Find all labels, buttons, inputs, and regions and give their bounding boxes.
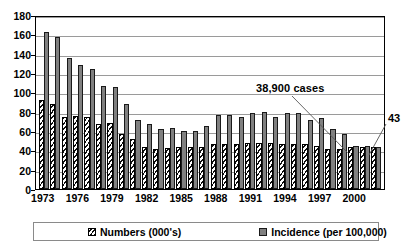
bar-group-1984	[164, 17, 175, 189]
bar-group-2001	[359, 17, 370, 189]
plot-area	[35, 16, 385, 190]
bar-incidence-1996	[308, 120, 313, 189]
bar-incidence-1977	[90, 69, 95, 189]
bar-incidence-1992	[262, 112, 267, 189]
chart-container: 020406080100120140160180 197319761979198…	[0, 0, 412, 249]
bar-incidence-1981	[135, 120, 140, 189]
legend-label-numbers: Numbers (000's)	[100, 226, 181, 238]
y-axis-tick-100: 100	[13, 88, 31, 98]
y-axis-tick-140: 140	[13, 50, 31, 60]
y-axis-tick-180: 180	[13, 11, 31, 21]
bar-group-1990	[233, 17, 244, 189]
x-axis-tick-1976: 1976	[66, 192, 89, 204]
y-axis-tick-80: 80	[19, 108, 31, 118]
bar-group-1978	[95, 17, 106, 189]
bar-incidence-1993	[273, 117, 278, 190]
bar-incidence-1989	[227, 115, 232, 189]
x-axis-tick-2000: 2000	[342, 192, 365, 204]
bar-group-1981	[130, 17, 141, 189]
bar-group-1989	[222, 17, 233, 189]
bar-incidence-1997	[319, 118, 324, 189]
legend-item-numbers[interactable]: Numbers (000's)	[88, 226, 181, 238]
bar-group-1992	[256, 17, 267, 189]
bar-group-1997	[313, 17, 324, 189]
x-axis-tick-1994: 1994	[273, 192, 296, 204]
legend-item-incidence[interactable]: Incidence (per 100,000)	[259, 226, 387, 238]
bar-incidence-1999	[342, 134, 347, 189]
bar-group-2000	[348, 17, 359, 189]
x-axis-tick-1982: 1982	[135, 192, 158, 204]
bar-group-1974	[49, 17, 60, 189]
x-axis-tick-1985: 1985	[169, 192, 192, 204]
bar-incidence-1987	[204, 126, 209, 189]
chart-legend: Numbers (000's) Incidence (per 100,000)	[33, 222, 379, 241]
bar-incidence-1991	[250, 113, 255, 189]
x-axis-tick-1979: 1979	[100, 192, 123, 204]
gray-swatch-icon	[259, 228, 267, 236]
y-axis-tick-120: 120	[13, 69, 31, 79]
bar-group-1988	[210, 17, 221, 189]
x-axis-tick-1991: 1991	[239, 192, 262, 204]
x-axis-tick-1988: 1988	[204, 192, 227, 204]
bar-group-1993	[267, 17, 278, 189]
x-axis-tick-1973: 1973	[31, 192, 54, 204]
bar-incidence-1995	[296, 113, 301, 189]
annotation-cases-label: 38,900 cases	[256, 82, 325, 94]
bar-group-1994	[279, 17, 290, 189]
bar-group-1985	[176, 17, 187, 189]
bar-incidence-1988	[216, 115, 221, 189]
bar-group-1977	[84, 17, 95, 189]
bar-incidence-1975	[67, 58, 72, 189]
bar-group-1986	[187, 17, 198, 189]
legend-label-incidence: Incidence (per 100,000)	[271, 226, 387, 238]
bar-group-1996	[302, 17, 313, 189]
bar-group-1983	[153, 17, 164, 189]
bar-group-1991	[244, 17, 255, 189]
bar-incidence-1986	[193, 131, 198, 189]
bar-incidence-1984	[170, 128, 175, 189]
bar-incidence-1985	[181, 131, 186, 189]
bar-group-1976	[72, 17, 83, 189]
y-axis-tick-60: 60	[19, 127, 31, 137]
y-axis-tick-40: 40	[19, 146, 31, 156]
bar-incidence-1974	[55, 37, 60, 189]
bar-incidence-1990	[239, 117, 244, 189]
x-axis-tick-1997: 1997	[308, 192, 331, 204]
y-axis-tickmark-0	[31, 190, 35, 191]
bar-group-1980	[118, 17, 129, 189]
bar-incidence-2000	[353, 146, 358, 190]
hatched-swatch-icon	[88, 228, 96, 236]
y-axis-tick-20: 20	[19, 166, 31, 176]
bar-incidence-2002	[376, 147, 381, 189]
y-axis: 020406080100120140160180	[0, 0, 35, 196]
bar-incidence-1983	[158, 129, 163, 189]
bar-group-2002	[371, 17, 382, 189]
bar-group-1995	[290, 17, 301, 189]
bar-group-1973	[38, 17, 49, 189]
bar-incidence-1978	[101, 86, 106, 189]
x-axis: 1973197619791982198519881991199419972000	[35, 192, 385, 208]
bar-group-1975	[61, 17, 72, 189]
bar-incidence-1980	[124, 104, 129, 189]
bar-group-1999	[336, 17, 347, 189]
y-axis-tick-160: 160	[13, 30, 31, 40]
bar-group-1987	[199, 17, 210, 189]
bar-series-group	[36, 17, 384, 189]
bar-incidence-1976	[78, 65, 83, 189]
bar-incidence-1979	[113, 87, 118, 189]
bar-incidence-1982	[147, 124, 152, 189]
annotation-last-value-label: 43	[388, 112, 400, 124]
bar-group-1998	[325, 17, 336, 189]
bar-incidence-2001	[365, 146, 370, 190]
bar-incidence-1998	[330, 129, 335, 189]
bar-incidence-1973	[44, 32, 49, 189]
bar-group-1982	[141, 17, 152, 189]
bar-incidence-1994	[285, 113, 290, 189]
bar-group-1979	[107, 17, 118, 189]
